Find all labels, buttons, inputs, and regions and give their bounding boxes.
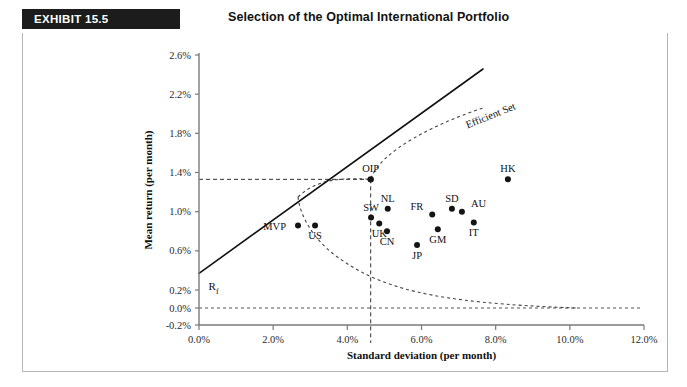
y-tick-label: 1.0% — [169, 206, 191, 217]
y-tick-label: 0.2% — [169, 285, 191, 296]
x-tick-label: 12.0% — [630, 334, 657, 345]
x-tick-label: 10.0% — [556, 334, 583, 345]
data-point-marker-it — [471, 219, 477, 225]
x-axis-title: Standard deviation (per month) — [347, 349, 497, 362]
exhibit-figure: EXHIBIT 15.5 Selection of the Optimal In… — [0, 0, 687, 387]
data-point-marker-cn — [384, 228, 390, 234]
data-point-marker-mvp — [295, 222, 301, 228]
chart-canvas: 2.6%2.2%1.8%1.4%1.0%0.6%0.2%0.0%-0.2%0.0… — [0, 0, 687, 387]
efficient-frontier-lower-curve — [298, 197, 577, 308]
data-point-label-oip: OIP — [362, 163, 379, 174]
y-tick-label: 0.6% — [169, 245, 191, 256]
data-point-label-gm: GM — [429, 234, 447, 245]
data-point-marker-us — [312, 222, 318, 228]
data-point-label-cn: CN — [380, 236, 395, 247]
risk-free-rate-subscript: f — [216, 287, 219, 296]
data-point-marker-gm — [435, 226, 441, 232]
data-point-marker-fr — [429, 212, 435, 218]
y-tick-label: -0.2% — [166, 320, 192, 331]
data-point-marker-hk — [505, 176, 511, 182]
data-point-marker-sw — [368, 215, 374, 221]
data-point-marker-uk — [376, 220, 382, 226]
y-tick-label: 2.6% — [169, 50, 191, 61]
y-axis-title: Mean return (per month) — [142, 130, 155, 249]
x-tick-label: 6.0% — [411, 334, 433, 345]
y-tick-label: 0.0% — [169, 303, 191, 314]
scatter-plot-svg: 2.6%2.2%1.8%1.4%1.0%0.6%0.2%0.0%-0.2%0.0… — [0, 0, 687, 387]
data-point-marker-nl — [385, 206, 391, 212]
data-point-marker-oip — [367, 176, 373, 182]
data-point-marker-au — [459, 209, 465, 215]
efficient-set-annotation: Efficient Set — [464, 100, 517, 130]
data-point-marker-sd — [449, 206, 455, 212]
y-tick-label: 1.8% — [169, 128, 191, 139]
y-tick-label: 1.4% — [169, 167, 191, 178]
x-tick-label: 0.0% — [188, 334, 210, 345]
data-point-label-mvp: MVP — [263, 221, 286, 232]
data-point-label-jp: JP — [412, 250, 422, 261]
x-tick-label: 4.0% — [336, 334, 358, 345]
data-point-label-hk: HK — [500, 163, 516, 174]
data-point-marker-jp — [414, 242, 420, 248]
data-point-label-au: AU — [471, 198, 487, 209]
data-point-label-nl: NL — [381, 193, 395, 204]
efficient-frontier-upper-curve — [298, 108, 483, 197]
data-point-label-fr: FR — [410, 201, 423, 212]
x-tick-label: 8.0% — [485, 334, 507, 345]
data-point-label-us: US — [308, 230, 322, 241]
x-tick-label: 2.0% — [262, 334, 284, 345]
y-tick-label: 2.2% — [169, 89, 191, 100]
plot-generated-content: 2.6%2.2%1.8%1.4%1.0%0.6%0.2%0.0%-0.2%0.0… — [142, 50, 658, 362]
data-point-label-it: IT — [469, 227, 479, 238]
data-point-label-sw: SW — [363, 202, 379, 213]
data-point-label-sd: SD — [445, 193, 459, 204]
